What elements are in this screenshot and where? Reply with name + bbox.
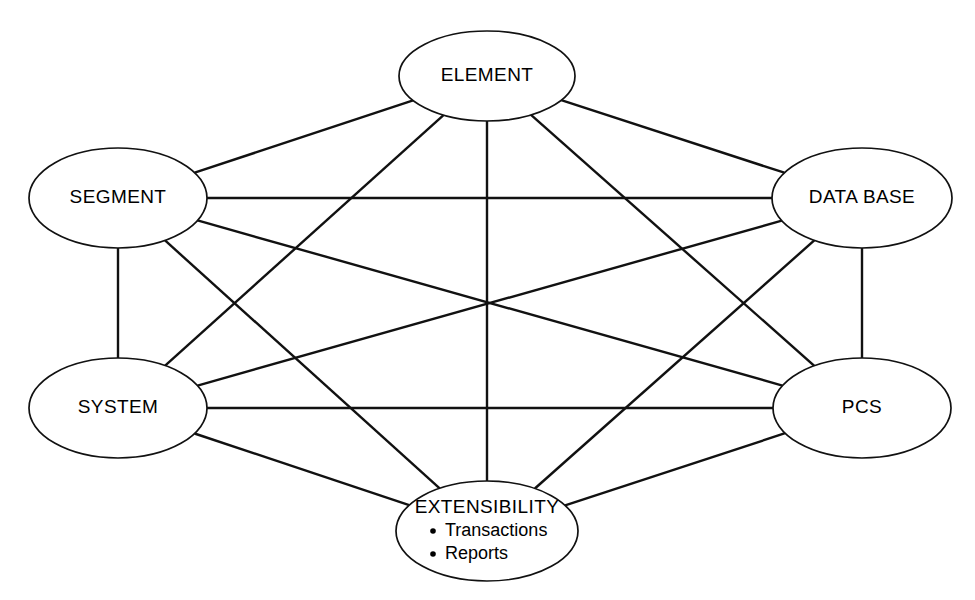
node-label-element: ELEMENT — [441, 64, 534, 85]
diagram-canvas: ELEMENTSEGMENTDATA BASESYSTEMPCSEXTENSIB… — [0, 0, 975, 600]
node-label-database: DATA BASE — [809, 186, 915, 207]
bullet-icon — [430, 551, 436, 557]
node-segment[interactable]: SEGMENT — [29, 148, 207, 248]
node-layer: ELEMENTSEGMENTDATA BASESYSTEMPCSEXTENSIB… — [29, 31, 952, 581]
node-sublabel-extensibility-1: Reports — [445, 543, 508, 563]
bullet-icon — [430, 528, 436, 534]
edge-pcs-extensibility — [565, 433, 785, 505]
node-element[interactable]: ELEMENT — [399, 31, 575, 121]
node-system[interactable]: SYSTEM — [29, 358, 207, 458]
edge-element-segment — [195, 100, 413, 172]
node-pcs[interactable]: PCS — [773, 358, 951, 458]
relationship-graph: ELEMENTSEGMENTDATA BASESYSTEMPCSEXTENSIB… — [0, 0, 975, 600]
node-database[interactable]: DATA BASE — [772, 148, 952, 248]
node-sublabel-extensibility-0: Transactions — [445, 520, 547, 540]
node-label-system: SYSTEM — [78, 396, 159, 417]
edge-layer — [118, 100, 862, 505]
edge-system-extensibility — [195, 434, 410, 506]
node-extensibility[interactable]: EXTENSIBILITYTransactionsReports — [396, 481, 578, 581]
node-label-pcs: PCS — [842, 396, 882, 417]
node-label-segment: SEGMENT — [70, 186, 167, 207]
edge-element-pcs — [531, 115, 814, 366]
edge-element-database — [561, 100, 784, 173]
node-label-extensibility: EXTENSIBILITY — [415, 496, 560, 517]
